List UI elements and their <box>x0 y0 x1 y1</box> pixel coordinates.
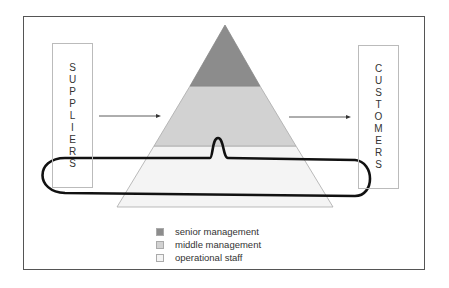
suppliers-letter: P <box>69 98 76 110</box>
customers-letter: S <box>375 159 382 171</box>
suppliers-letter: S <box>69 62 76 74</box>
legend-label: operational staff <box>175 252 242 263</box>
customers-letter: R <box>375 147 382 159</box>
customers-letter: U <box>375 75 382 87</box>
pyramid-middle-management <box>154 86 296 146</box>
customers-letter: S <box>375 87 382 99</box>
suppliers-letter: P <box>69 86 76 98</box>
legend-label: senior management <box>175 226 259 237</box>
suppliers-letter: E <box>69 134 76 146</box>
legend: senior management middle management oper… <box>156 225 261 264</box>
suppliers-letter: R <box>69 146 76 158</box>
customers-letter: T <box>375 99 381 111</box>
arrow-pyramid-to-customers <box>289 115 351 119</box>
suppliers-letter: S <box>69 158 76 170</box>
legend-item-senior: senior management <box>156 225 261 238</box>
customers-letter: O <box>375 111 383 123</box>
legend-swatch <box>156 254 164 262</box>
customers-letter: C <box>375 63 382 75</box>
customers-letter: E <box>375 135 382 147</box>
legend-swatch <box>156 228 164 236</box>
suppliers-letter: I <box>71 122 74 134</box>
legend-label: middle management <box>175 239 261 250</box>
legend-swatch <box>156 241 164 249</box>
suppliers-letter: U <box>69 74 76 86</box>
suppliers-letter: L <box>70 110 76 122</box>
suppliers-box: S U P P L I E R S <box>52 43 93 188</box>
pyramid-senior-management <box>190 25 260 86</box>
arrow-suppliers-to-pyramid <box>99 114 161 118</box>
customers-box: C U S T O M E R S <box>358 45 399 189</box>
legend-item-operational: operational staff <box>156 251 261 264</box>
legend-item-middle: middle management <box>156 238 261 251</box>
customers-letter: M <box>374 123 382 135</box>
